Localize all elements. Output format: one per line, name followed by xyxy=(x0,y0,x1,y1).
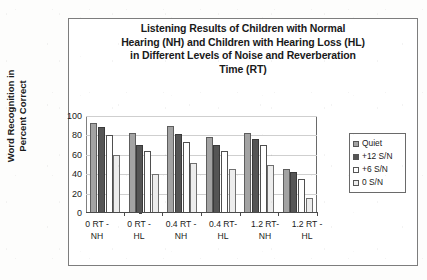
y-axis-title-line-2: Percent Correct xyxy=(17,55,29,177)
y-tick-label-0: 0 xyxy=(77,209,82,218)
bar xyxy=(136,145,143,213)
x-axis-label: 1.2 RT -HL xyxy=(286,219,328,242)
bar-group xyxy=(125,116,164,213)
bar xyxy=(206,137,213,213)
bar xyxy=(183,142,190,213)
legend-item[interactable]: 0 S/N xyxy=(353,176,402,189)
bar xyxy=(113,155,120,213)
bar xyxy=(229,169,236,213)
x-axis-label-line-1: 0 RT - xyxy=(118,219,160,231)
y-axis-tick-labels: 100806040200 xyxy=(56,110,82,220)
y-tick-label-100: 100 xyxy=(67,112,82,121)
x-tick-mark xyxy=(125,212,164,216)
x-axis-label-line-1: 1.2 RT- xyxy=(244,219,286,231)
bar xyxy=(175,134,182,213)
x-tick-mark xyxy=(279,212,318,216)
bar-group xyxy=(240,116,279,213)
bar xyxy=(90,123,97,213)
chart-title-line-2: Hearing (NH) and Children with Hearing L… xyxy=(70,36,416,50)
y-tick-label-60: 60 xyxy=(72,151,82,160)
bar xyxy=(106,135,113,213)
chart-title: Listening Results of Children with Norma… xyxy=(70,22,416,76)
x-axis-label-line-2: HL xyxy=(286,231,328,243)
y-axis-title-line-1: Word Recognition in xyxy=(5,55,17,177)
x-tick-mark xyxy=(241,212,280,216)
legend-item[interactable]: +12 S/N xyxy=(353,150,402,163)
x-axis-labels: 0 RT -NH0 RT -HL0.4 RT -NH0.4 RT-HL1.2 R… xyxy=(76,219,328,242)
x-axis-label-line-2: NH xyxy=(244,231,286,243)
bar xyxy=(98,127,105,213)
x-tick-mark xyxy=(163,212,202,216)
bar-groups xyxy=(86,116,317,213)
legend-label: +12 S/N xyxy=(362,152,393,161)
bar xyxy=(244,133,251,213)
y-axis-title: Word Recognition in Percent Correct xyxy=(5,55,29,177)
x-axis-label: 0 RT -NH xyxy=(76,219,118,242)
plot-area xyxy=(86,116,317,213)
bar xyxy=(306,198,313,213)
x-axis-label-line-2: HL xyxy=(202,231,244,243)
bar xyxy=(129,133,136,213)
x-axis-label-line-1: 0 RT - xyxy=(76,219,118,231)
y-tick-label-20: 20 xyxy=(72,190,82,199)
x-axis-label-line-2: HL xyxy=(118,231,160,243)
x-axis-label: 0 RT -HL xyxy=(118,219,160,242)
legend-swatch-icon xyxy=(353,141,359,147)
bar-group xyxy=(202,116,241,213)
x-axis-label-line-2: NH xyxy=(76,231,118,243)
bar xyxy=(221,151,228,213)
x-axis-label-line-1: 0.4 RT- xyxy=(202,219,244,231)
bar-group xyxy=(163,116,202,213)
bar xyxy=(144,151,151,213)
bar xyxy=(190,163,197,213)
x-axis-label: 0.4 RT -NH xyxy=(160,219,202,242)
bar xyxy=(267,165,274,214)
bar xyxy=(252,139,259,213)
x-axis-label-line-1: 0.4 RT - xyxy=(160,219,202,231)
legend-label: 0 S/N xyxy=(362,178,383,187)
bar xyxy=(213,145,220,213)
legend-swatch-icon xyxy=(353,180,359,186)
chart-title-line-4: Time (RT) xyxy=(70,63,416,77)
bar xyxy=(298,179,305,213)
y-tick-label-40: 40 xyxy=(72,170,82,179)
x-axis-label: 1.2 RT-NH xyxy=(244,219,286,242)
legend-item[interactable]: Quiet xyxy=(353,137,402,150)
x-axis-label: 0.4 RT-HL xyxy=(202,219,244,242)
bar xyxy=(260,145,267,213)
bar xyxy=(290,172,297,213)
y-tick-label-80: 80 xyxy=(72,131,82,140)
legend-label: +6 S/N xyxy=(362,165,388,174)
bar xyxy=(167,126,174,213)
legend-item[interactable]: +6 S/N xyxy=(353,163,402,176)
legend-swatch-icon xyxy=(353,167,359,173)
legend-label: Quiet xyxy=(362,139,382,148)
x-tick-mark xyxy=(202,212,241,216)
x-tick-mark xyxy=(86,212,125,216)
x-axis-label-line-2: NH xyxy=(160,231,202,243)
bar-group xyxy=(279,116,318,213)
x-axis-label-line-1: 1.2 RT - xyxy=(286,219,328,231)
chart-title-line-1: Listening Results of Children with Norma… xyxy=(70,22,416,36)
bar-group xyxy=(86,116,125,213)
bar xyxy=(152,174,159,213)
chart-title-line-3: in Different Levels of Noise and Reverbe… xyxy=(70,49,416,63)
chart-legend: Quiet+12 S/N+6 S/N0 S/N xyxy=(349,133,406,193)
bar xyxy=(283,169,290,213)
x-axis-tick-marks xyxy=(86,212,318,216)
legend-swatch-icon xyxy=(353,154,359,160)
